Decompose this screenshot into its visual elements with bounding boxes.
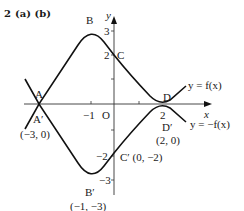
curve-f [25, 34, 186, 104]
x-axis-arrow-icon [204, 101, 212, 107]
question-number: 2 [4, 8, 11, 19]
point-D-prime-label: D′ [162, 121, 172, 133]
point-B-prime-coord: (−1, −3) [70, 200, 107, 211]
point-A-prime-coord: (−3, 0) [20, 128, 50, 141]
point-D-label: D [163, 91, 171, 103]
question-parts: (a) (b) [15, 8, 51, 19]
origin-label: O [102, 109, 110, 121]
curve-f-label: y = f(x) [188, 79, 222, 92]
point-B-prime-label: B′ [85, 186, 95, 198]
x-tick-label-2: 2 [160, 109, 166, 121]
y-tick-label-3: 3 [104, 25, 110, 37]
point-B-label: B [86, 14, 93, 26]
y-axis-arrow-icon [111, 16, 117, 24]
y-axis-label: y [105, 9, 111, 21]
point-A-label: A [35, 88, 43, 100]
point-A-prime-label: A′ [33, 113, 43, 125]
point-D-prime-coord: (2, 0) [156, 134, 180, 147]
point-C-prime-label: C′ (0, −2) [120, 151, 163, 164]
y-tick-label-minus3: −3 [99, 174, 111, 186]
point-C-label: C [117, 49, 124, 61]
graph-canvas: 2 (a) (b) x y −1 2 3 2 −2 −3 O y = f(x) … [0, 0, 244, 211]
y-tick-label-2: 2 [104, 49, 110, 61]
y-tick-label-minus2: −2 [96, 150, 108, 162]
curve-neg-f-label: y = −f(x) [190, 118, 230, 131]
x-tick-label-minus1: −1 [83, 109, 95, 121]
